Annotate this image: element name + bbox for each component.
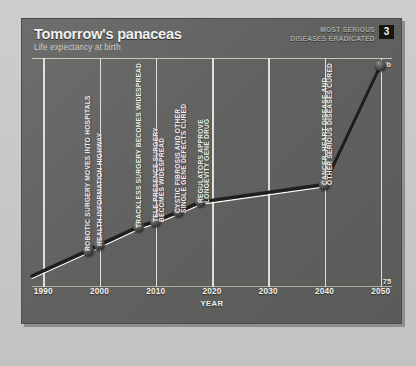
chart-panel: Tomorrow's panaceas Life expectancy at b… [21, 18, 402, 324]
x-axis: 1990200020102020203020402050 YEAR [32, 287, 392, 309]
milestone-label: OTHER SERIOUS DISEASES CURED [326, 63, 333, 185]
milestone-label: TRACKLESS SURGERY BECOMES WIDESPREAD [135, 62, 142, 227]
x-axis-tick-label: 2040 [315, 287, 334, 296]
x-axis-tick-label: 2020 [202, 287, 221, 296]
page-title: Tomorrow's panaceas [34, 26, 182, 42]
milestone-label: ROBOTIC SURGERY MOVES INTO HOSPITALS [84, 96, 91, 252]
milestone-label: SINGLE GENE DEFECTS CURED [180, 104, 187, 213]
x-axis-tick-label: 2030 [259, 287, 278, 296]
milestone-label: BECOMES WIDESPREAD [158, 138, 165, 222]
x-axis-tick-label: 2050 [371, 287, 390, 296]
chart-screenshot: Tomorrow's panaceas Life expectancy at b… [0, 0, 416, 366]
x-axis-tick-label: 2000 [90, 287, 109, 296]
status-badge: 3 [379, 25, 394, 39]
x-axis-tick-label: 2010 [146, 287, 165, 296]
plot-area: 10b 75 ROBOTIC SURGERY MOVES INTO HOSPIT… [32, 58, 392, 287]
plot-inner: 10b 75 ROBOTIC SURGERY MOVES INTO HOSPIT… [32, 58, 392, 287]
milestone-label: LONGEVITY GENE DRUG [203, 118, 210, 203]
page-subtitle: Life expectancy at birth [34, 43, 121, 52]
data-point-marker [375, 60, 386, 71]
x-axis-title: YEAR [32, 299, 392, 308]
milestone-label: HEALTH INFORMATION HIGHWAY [96, 133, 103, 246]
top-right-annotation: MOST SERIOUSDISEASES ERADICATED [255, 26, 375, 44]
x-axis-tick-label: 1990 [34, 287, 53, 296]
